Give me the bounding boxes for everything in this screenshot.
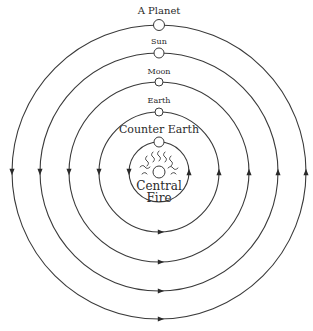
earth-label: Earth bbox=[148, 96, 171, 105]
arrow-right-icon bbox=[158, 259, 164, 264]
central-fire-diagram: Counter EarthEarthMoonSunA Planet Centra… bbox=[0, 0, 313, 331]
orbit-earth: Earth bbox=[96, 96, 221, 235]
counter-earth-label: Counter Earth bbox=[119, 123, 199, 136]
arrow-up-icon bbox=[186, 169, 191, 175]
arrow-right-icon bbox=[158, 288, 164, 293]
arrow-down-icon bbox=[66, 169, 71, 175]
counter-earth-body bbox=[154, 137, 164, 147]
arrow-down-icon bbox=[9, 169, 14, 175]
a-planet-label: A Planet bbox=[137, 5, 181, 16]
arrow-down-icon bbox=[37, 169, 42, 175]
arrow-right-icon bbox=[158, 229, 164, 234]
earth-body bbox=[155, 108, 163, 116]
central-fire-circle bbox=[153, 166, 165, 178]
a-planet-body bbox=[154, 20, 165, 31]
moon-body bbox=[155, 78, 163, 86]
sun-body bbox=[154, 48, 164, 58]
arrow-down-icon bbox=[126, 169, 131, 175]
arrow-right-icon bbox=[158, 316, 164, 321]
orbit-diagram-svg: Counter EarthEarthMoonSunA Planet Centra… bbox=[0, 0, 313, 331]
moon-label: Moon bbox=[148, 67, 171, 76]
arrow-up-icon bbox=[246, 169, 251, 175]
arrow-down-icon bbox=[96, 169, 101, 175]
sun-label: Sun bbox=[151, 37, 167, 46]
arrow-up-icon bbox=[216, 169, 221, 175]
arrow-up-icon bbox=[303, 169, 308, 175]
arrow-up-icon bbox=[275, 169, 280, 175]
orbits-layer: Counter EarthEarthMoonSunA Planet bbox=[9, 5, 308, 322]
central-fire-label-line2: Fire bbox=[146, 191, 171, 205]
